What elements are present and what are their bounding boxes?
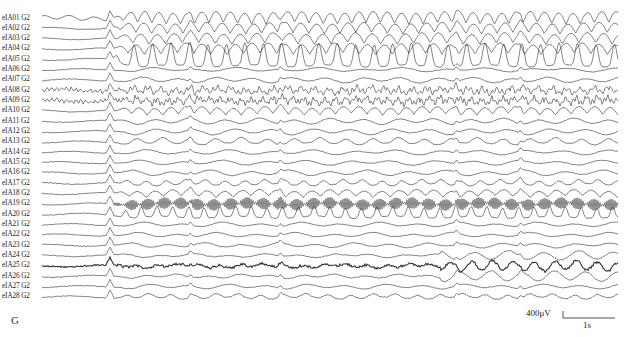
channel-trace	[42, 218, 618, 227]
channel-trace	[42, 205, 618, 219]
channel-label: eIA24 G2	[2, 251, 30, 259]
eeg-traces-plot	[0, 0, 625, 337]
channel-label: eIA16 G2	[2, 168, 30, 176]
channel-label: eIA26 G2	[2, 272, 30, 280]
channel-label: eIA18 G2	[2, 189, 30, 197]
channel-label: eIA10 G2	[2, 106, 30, 114]
channel-label: eIA11 G2	[2, 117, 29, 125]
channel-label: eIA22 G2	[2, 230, 30, 238]
channel-trace	[42, 228, 618, 237]
scale-bar-time-label: 1s	[583, 320, 591, 330]
channel-label: eIA12 G2	[2, 127, 30, 135]
channel-trace	[42, 82, 618, 95]
channel-trace	[42, 237, 618, 248]
channel-label: eIA07 G2	[2, 75, 30, 83]
channel-trace	[42, 92, 618, 107]
channel-trace	[42, 113, 618, 125]
channel-label: eIA14 G2	[2, 148, 30, 156]
channel-trace	[42, 135, 618, 145]
channel-trace	[42, 257, 618, 272]
channel-label: eIA04 G2	[2, 44, 30, 52]
channel-trace	[42, 155, 618, 165]
scale-bar	[563, 311, 615, 318]
channel-label: eIA08 G2	[2, 86, 30, 94]
channel-label: eIA02 G2	[2, 24, 30, 32]
channel-label: eIA03 G2	[2, 34, 30, 42]
eeg-figure: eIA01 G2eIA02 G2eIA03 G2eIA04 G2eIA05 G2…	[0, 0, 625, 337]
scale-bar-amplitude-label: 400μV	[526, 308, 551, 318]
panel-label: G	[11, 314, 19, 326]
channel-label: eIA17 G2	[2, 179, 30, 187]
channel-trace	[42, 279, 618, 289]
channel-trace	[42, 268, 618, 282]
channel-label: eIA13 G2	[2, 137, 30, 145]
channel-trace	[42, 10, 618, 24]
channel-label: eIA27 G2	[2, 282, 30, 290]
channel-trace	[42, 30, 618, 45]
channel-label: eIA15 G2	[2, 158, 30, 166]
channel-label: eIA25 G2	[2, 261, 30, 269]
channel-trace	[42, 62, 618, 72]
channel-label: eIA20 G2	[2, 210, 30, 218]
channel-trace	[42, 196, 618, 210]
channel-trace	[42, 20, 618, 34]
channel-label: eIA23 G2	[2, 241, 30, 249]
channel-trace	[42, 145, 618, 155]
channel-trace	[42, 124, 618, 135]
channel-label: eIA05 G2	[2, 55, 30, 63]
channel-trace	[42, 290, 618, 299]
channel-label: eIA01 G2	[2, 14, 30, 22]
channel-label: eIA19 G2	[2, 199, 30, 207]
channel-trace	[42, 185, 618, 197]
channel-label: eIA06 G2	[2, 65, 30, 73]
channel-trace	[42, 73, 618, 83]
channel-label: eIA09 G2	[2, 96, 30, 104]
channel-label: eIA28 G2	[2, 292, 30, 300]
channel-trace	[42, 175, 618, 186]
channel-label: eIA21 G2	[2, 220, 30, 228]
channel-trace	[42, 247, 618, 260]
channel-trace	[42, 41, 618, 55]
channel-trace	[42, 165, 618, 176]
